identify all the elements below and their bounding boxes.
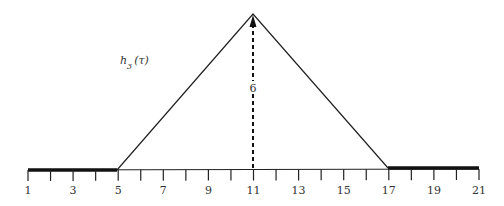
tick-label: 1 [25, 184, 32, 197]
tick-label: 19 [427, 184, 441, 197]
tick-label: 21 [472, 184, 486, 197]
tick-label: 15 [337, 184, 351, 197]
axis-ticks [28, 169, 479, 181]
triangle-function-diagram: 13579111315171921 6 h3(τ) [0, 0, 504, 206]
tick-label: 3 [70, 184, 77, 197]
tick-label: 7 [160, 184, 167, 197]
function-label: h3(τ) [120, 54, 149, 71]
tick-label: 9 [205, 184, 212, 197]
tick-label: 11 [247, 184, 261, 197]
tick-label: 13 [292, 184, 306, 197]
height-label: 6 [250, 82, 257, 95]
tick-label: 17 [382, 184, 396, 197]
axis-tick-labels: 13579111315171921 [25, 184, 487, 197]
tick-label: 5 [115, 184, 122, 197]
